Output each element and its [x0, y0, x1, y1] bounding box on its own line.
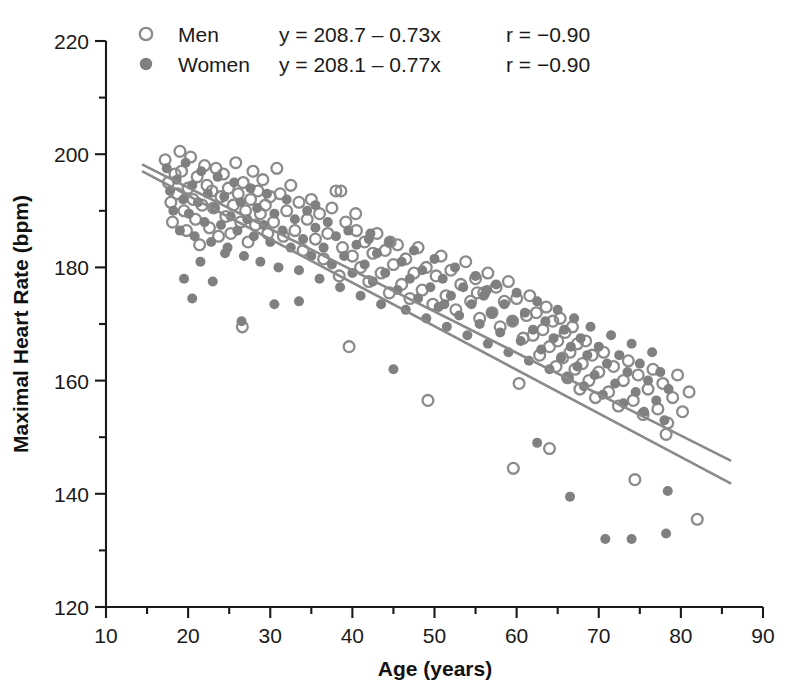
data-point-women — [559, 325, 569, 335]
data-point-women — [643, 376, 653, 386]
data-point-men — [344, 341, 355, 352]
data-point-women — [647, 347, 657, 357]
data-point-women — [397, 257, 407, 267]
data-point-women — [606, 330, 616, 340]
legend-correlation-men: r = −0.90 — [506, 23, 590, 46]
data-point-women — [430, 254, 440, 264]
data-point-women — [439, 299, 449, 309]
x-tick-label: 40 — [341, 624, 364, 647]
x-axis-title: Age (years) — [378, 657, 492, 680]
data-point-women — [269, 299, 279, 309]
data-point-women — [319, 243, 329, 253]
data-point-women — [168, 206, 178, 216]
data-point-women — [236, 197, 246, 207]
scatter-plot-figure: 120140160180200220 102030405060708090 Ag… — [0, 0, 796, 691]
data-point-women — [614, 350, 624, 360]
data-point-women — [572, 361, 582, 371]
y-tick-label: 180 — [54, 256, 89, 279]
data-point-women — [553, 305, 563, 315]
data-point-men — [508, 463, 519, 474]
y-tick-label: 200 — [54, 143, 89, 166]
data-point-women — [528, 325, 538, 335]
data-point-women — [655, 367, 665, 377]
data-point-men — [623, 355, 634, 366]
data-point-women — [566, 342, 576, 352]
data-point-men — [692, 514, 703, 525]
y-tick-label: 220 — [54, 30, 89, 53]
data-point-men — [230, 157, 241, 168]
data-point-women — [351, 240, 361, 250]
y-tick-label: 120 — [54, 596, 89, 619]
data-point-women — [246, 183, 256, 193]
data-point-women — [602, 359, 612, 369]
data-point-women — [569, 313, 579, 323]
legend-equation-women: y = 208.1 – 0.77x — [279, 53, 441, 76]
data-point-women — [576, 333, 586, 343]
data-point-women — [339, 251, 349, 261]
data-point-women — [466, 299, 476, 309]
data-point-women — [663, 486, 673, 496]
data-point-women — [499, 299, 509, 309]
legend-equation-men: y = 208.7 – 0.73x — [279, 23, 441, 46]
data-point-women — [627, 534, 637, 544]
data-point-men — [541, 302, 552, 313]
data-point-women — [179, 274, 189, 284]
data-point-women — [450, 262, 460, 272]
x-tick-label: 80 — [669, 624, 692, 647]
data-point-women — [454, 311, 464, 321]
data-point-women — [482, 285, 492, 295]
x-tick-label: 50 — [423, 624, 446, 647]
legend-marker-women-icon — [140, 58, 152, 70]
data-point-women — [438, 274, 448, 284]
data-point-women — [610, 378, 620, 388]
data-point-women — [516, 336, 526, 346]
data-point-women — [269, 209, 279, 219]
data-point-men — [167, 217, 178, 228]
data-point-women — [631, 387, 641, 397]
data-point-women — [282, 194, 292, 204]
data-point-women — [252, 203, 262, 213]
x-tick-label: 70 — [587, 624, 610, 647]
data-point-women — [536, 344, 546, 354]
data-point-women — [175, 226, 185, 236]
data-point-women — [600, 534, 610, 544]
data-point-women — [162, 163, 172, 173]
data-point-men — [423, 395, 434, 406]
data-point-women — [491, 279, 501, 289]
data-point-women — [508, 316, 518, 326]
data-point-women — [659, 415, 669, 425]
data-point-women — [360, 260, 370, 270]
data-point-men — [460, 256, 471, 267]
data-point-men — [257, 174, 268, 185]
data-point-women — [273, 262, 283, 272]
data-point-women — [262, 189, 272, 199]
chart-canvas: 120140160180200220 102030405060708090 Ag… — [0, 0, 796, 691]
data-point-women — [388, 364, 398, 374]
data-point-men — [248, 166, 259, 177]
data-point-women — [302, 206, 312, 216]
data-point-women — [661, 528, 671, 538]
data-point-women — [556, 353, 566, 363]
data-point-women — [635, 359, 645, 369]
legend-label-women: Women — [178, 53, 250, 76]
data-point-women — [356, 291, 366, 301]
data-point-men — [544, 443, 555, 454]
data-point-women — [216, 220, 226, 230]
data-point-women — [232, 226, 242, 236]
data-point-men — [629, 474, 640, 485]
data-point-women — [590, 370, 600, 380]
data-point-women — [294, 296, 304, 306]
data-point-women — [462, 330, 472, 340]
y-tick-label: 140 — [54, 483, 89, 506]
data-point-women — [384, 237, 394, 247]
data-point-women — [651, 395, 661, 405]
data-point-women — [196, 166, 206, 176]
data-point-women — [290, 214, 300, 224]
data-point-women — [532, 438, 542, 448]
data-point-women — [294, 265, 304, 275]
data-point-women — [310, 223, 320, 233]
data-point-women — [323, 217, 333, 227]
data-point-women — [372, 248, 382, 258]
data-point-women — [405, 274, 415, 284]
data-point-women — [220, 248, 230, 258]
